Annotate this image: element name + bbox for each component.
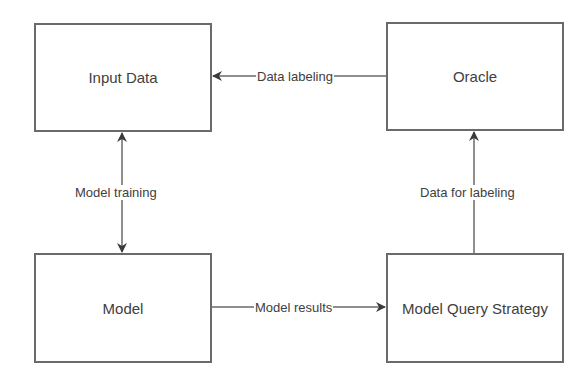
node-input-data: Input Data [34,23,212,132]
node-oracle: Oracle [386,22,564,131]
edge-label-data-for-labeling: Data for labeling [419,185,516,200]
node-model: Model [34,253,212,363]
node-label: Oracle [453,68,497,85]
node-label: Model Query Strategy [402,300,548,317]
node-label: Input Data [88,69,157,86]
edge-label-model-training: Model training [74,185,158,200]
edge-label-data-labeling: Data labeling [256,69,334,84]
node-label: Model [103,300,144,317]
edge-label-model-results: Model results [254,300,333,315]
node-model-query-strategy: Model Query Strategy [386,253,564,363]
